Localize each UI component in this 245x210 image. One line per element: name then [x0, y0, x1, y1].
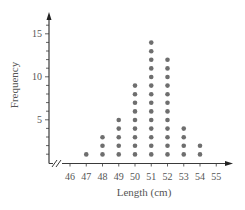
- y-axis-title: Frequency: [8, 61, 20, 108]
- x-tick-label: 46: [65, 171, 75, 182]
- data-dot: [165, 58, 170, 63]
- data-dot: [116, 152, 121, 157]
- x-axis-title: Length (cm): [117, 186, 172, 199]
- data-dot: [133, 83, 138, 88]
- data-dot: [149, 135, 154, 140]
- data-dot: [149, 152, 154, 157]
- data-dot: [100, 135, 105, 140]
- data-dot: [133, 92, 138, 97]
- y-tick-label: 5: [37, 114, 42, 125]
- data-dot: [198, 152, 203, 157]
- y-axis-arrow-icon: [47, 12, 52, 20]
- data-dot: [165, 126, 170, 131]
- data-dot: [181, 135, 186, 140]
- data-dot: [133, 126, 138, 131]
- data-dots: [84, 40, 202, 156]
- data-dot: [149, 75, 154, 80]
- y-tick-label: 15: [32, 28, 42, 39]
- data-dot: [181, 152, 186, 157]
- data-dot: [165, 101, 170, 106]
- data-dot: [133, 152, 138, 157]
- x-tick-label: 47: [81, 171, 91, 182]
- data-dot: [133, 144, 138, 149]
- data-dot: [100, 152, 105, 157]
- x-tick-label: 48: [98, 171, 108, 182]
- data-dot: [149, 92, 154, 97]
- data-dot: [116, 118, 121, 123]
- data-dot: [165, 152, 170, 157]
- data-dot: [165, 144, 170, 149]
- data-dot: [149, 66, 154, 71]
- data-dot: [149, 49, 154, 54]
- data-dot: [149, 40, 154, 45]
- data-dot: [165, 66, 170, 71]
- data-dot: [165, 75, 170, 80]
- data-dot: [149, 58, 154, 63]
- y-axis-tick-labels: 51015: [32, 28, 42, 125]
- x-tick-label: 53: [179, 171, 189, 182]
- data-dot: [165, 109, 170, 114]
- data-dot: [116, 126, 121, 131]
- x-tick-label: 52: [163, 171, 173, 182]
- data-dot: [133, 109, 138, 114]
- data-dot: [149, 101, 154, 106]
- y-tick-label: 10: [32, 71, 42, 82]
- axis-break-icon: [52, 158, 62, 168]
- data-dot: [198, 144, 203, 149]
- data-dot: [149, 83, 154, 88]
- x-tick-label: 55: [211, 171, 221, 182]
- data-dot: [84, 152, 89, 157]
- x-tick-label: 49: [114, 171, 124, 182]
- data-dot: [165, 118, 170, 123]
- dot-plot-chart: 51015 46474849505152535455 Length (cm) F…: [0, 0, 245, 210]
- x-axis-arrow-icon: [225, 161, 233, 166]
- x-tick-label: 54: [195, 171, 205, 182]
- data-dot: [133, 101, 138, 106]
- data-dot: [149, 118, 154, 123]
- data-dot: [181, 126, 186, 131]
- data-dot: [181, 144, 186, 149]
- data-dot: [165, 135, 170, 140]
- data-dot: [149, 126, 154, 131]
- x-tick-label: 50: [130, 171, 140, 182]
- data-dot: [165, 83, 170, 88]
- x-tick-label: 51: [146, 171, 156, 182]
- data-dot: [100, 144, 105, 149]
- data-dot: [116, 135, 121, 140]
- data-dot: [133, 135, 138, 140]
- x-axis-tick-labels: 46474849505152535455: [65, 171, 221, 182]
- data-dot: [149, 109, 154, 114]
- data-dot: [133, 118, 138, 123]
- data-dot: [149, 144, 154, 149]
- data-dot: [116, 144, 121, 149]
- data-dot: [165, 92, 170, 97]
